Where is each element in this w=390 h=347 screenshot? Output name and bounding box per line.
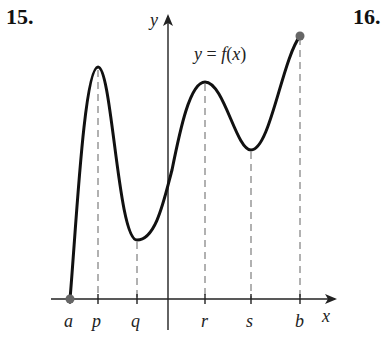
function-label: y = f(x) xyxy=(192,44,246,65)
function-graph: y x a p q r s b y = f(x) xyxy=(0,0,390,347)
tick-label-b: b xyxy=(295,311,304,331)
tick-label-s: s xyxy=(246,311,253,331)
tick-label-a: a xyxy=(64,311,73,331)
tick-label-r: r xyxy=(201,311,209,331)
endpoint-b-dot xyxy=(296,32,305,41)
tick-label-p: p xyxy=(90,311,101,331)
function-curve xyxy=(70,36,300,299)
tick-label-q: q xyxy=(131,311,140,331)
dashed-guides xyxy=(98,38,300,299)
y-axis-label: y xyxy=(148,10,158,30)
endpoint-a-dot xyxy=(66,295,75,304)
x-axis-label: x xyxy=(321,306,330,326)
